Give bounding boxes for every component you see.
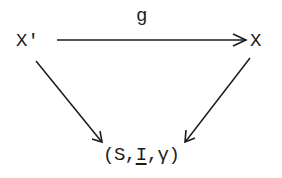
morphism-label-g: g bbox=[136, 7, 147, 26]
comma-2: , bbox=[147, 144, 158, 166]
arrow-g bbox=[57, 34, 246, 46]
symbol-i-underlined: I bbox=[136, 144, 147, 166]
node-x-prime: X' bbox=[16, 32, 39, 51]
node-triple-s-i-gamma: (S,I,γ) bbox=[103, 146, 179, 165]
symbol-s: S bbox=[114, 144, 125, 166]
paren-close: ) bbox=[168, 144, 179, 166]
symbol-gamma: γ bbox=[158, 144, 169, 166]
commutative-diagram: g X' X (S,I,γ) bbox=[0, 0, 282, 178]
comma-1: , bbox=[125, 144, 136, 166]
arrow-left-diagonal bbox=[36, 61, 102, 142]
node-x: X bbox=[250, 32, 261, 51]
arrow-right-diagonal bbox=[185, 58, 250, 142]
paren-open: ( bbox=[103, 144, 114, 166]
